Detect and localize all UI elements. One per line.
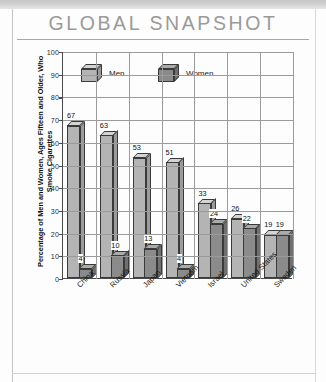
gridline [63,256,293,257]
bar-group: 674 [64,51,94,278]
gridline [63,211,293,212]
title-divider [17,39,309,40]
y-axis-tick [59,188,63,189]
gridline [63,234,293,235]
page-border-right [315,9,316,382]
bar-series-container: 67463105313514332426221919 [63,51,293,278]
bar-value-label: 53 [132,143,141,152]
bar-group: 3324 [195,51,225,278]
y-axis-tick-label: 30 [51,206,59,215]
document-page: GLOBAL SNAPSHOT Percentage of Men and Wo… [0,0,326,382]
y-axis-tick-label: 50 [51,161,59,170]
y-axis-tick [59,234,63,235]
y-axis-tick-label: 60 [51,138,59,147]
bar-value-label: 63 [99,121,108,130]
bar-value-label: 19 [264,220,273,229]
x-axis-tick-labels: ChinaRussiaJapanVietnamIsraelUnited Stat… [62,283,302,343]
y-axis-tick [59,211,63,212]
gridline [63,97,293,98]
y-axis-tick [59,279,63,280]
bar-value-label: 10 [111,241,120,250]
grid-vertical-line [96,52,97,279]
y-axis-tick-label: 20 [51,229,59,238]
bar-chart: Percentage of Men and Women, Ages Fiftee… [13,44,313,344]
gridline [63,52,293,53]
bar-group: 6310 [97,51,127,278]
bar-value-label: 33 [198,189,207,198]
y-axis-tick [59,52,63,53]
grid-vertical-line [162,52,163,279]
grid-vertical-line [129,52,130,279]
gridline [63,188,293,189]
bar-value-label: 19 [275,220,284,229]
y-axis-tick [59,120,63,121]
y-axis-tick-label: 80 [51,93,59,102]
bar-value-label: 26 [231,204,240,213]
y-axis-tick-label: 70 [51,116,59,125]
y-axis-tick-label: 10 [51,252,59,261]
bar-value-label: 13 [144,234,153,243]
y-axis-tick-label: 90 [51,70,59,79]
bar-group: 5313 [130,51,160,278]
bar-group: 2622 [228,51,258,278]
grid-vertical-line [293,52,294,279]
gridline [63,166,293,167]
gridline [63,143,293,144]
page-border-bottom [12,373,316,374]
y-axis-tick-label: 40 [51,184,59,193]
bar-value-label: 51 [165,148,174,157]
bar-women [210,224,223,278]
y-axis-tick [59,97,63,98]
grid-vertical-line [260,52,261,279]
y-axis-tick [59,166,63,167]
y-axis-tick-label: 100 [47,48,59,57]
gridline [63,75,293,76]
grid-vertical-line [227,52,228,279]
bar-group: 1919 [261,51,291,278]
y-axis-tick [59,256,63,257]
y-axis-tick-labels: 0102030405060708090100 [35,52,59,279]
gridline [63,120,293,121]
bar-value-label: 67 [67,111,76,120]
bar-group: 514 [163,51,193,278]
plot-area: Men Women 67463105313514332426221919 [62,52,292,279]
bar-value-label: 22 [242,214,251,223]
grid-vertical-line [194,52,195,279]
scan-edge-band [0,0,326,9]
y-axis-tick [59,143,63,144]
y-axis-tick [59,75,63,76]
page-title: GLOBAL SNAPSHOT [13,12,313,35]
